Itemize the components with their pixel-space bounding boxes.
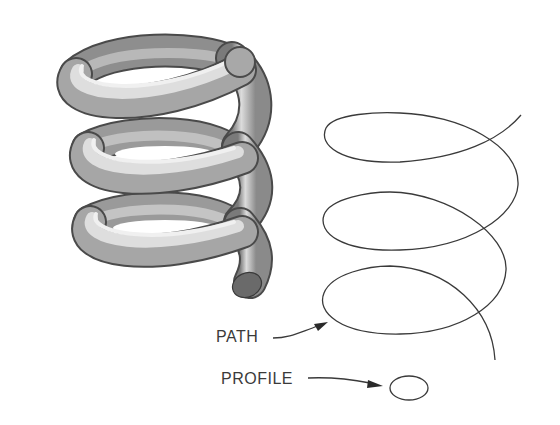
tube-top-end xyxy=(225,47,255,77)
helix-path-curve xyxy=(323,113,521,360)
path-label: PATH xyxy=(216,328,258,346)
profile-circle xyxy=(390,376,428,400)
profile-leader-arrow xyxy=(308,378,383,388)
path-leader-arrow xyxy=(273,322,328,338)
sweep-diagram xyxy=(0,0,560,425)
profile-label: PROFILE xyxy=(221,370,293,388)
swept-spring-solid xyxy=(73,47,265,302)
